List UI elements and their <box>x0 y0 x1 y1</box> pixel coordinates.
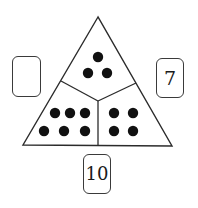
dot <box>128 126 138 136</box>
dot <box>102 68 112 78</box>
dot <box>83 68 93 78</box>
answer-box-left[interactable] <box>12 56 41 97</box>
box-bottom-value: 10 <box>86 165 109 183</box>
dot <box>80 108 90 118</box>
divider-right <box>98 83 136 101</box>
dot <box>128 108 138 118</box>
section-bottom-left-dots <box>39 108 90 136</box>
number-box-bottom: 10 <box>83 154 111 194</box>
divider-left <box>61 81 98 101</box>
dot <box>109 126 119 136</box>
box-right-value: 7 <box>164 69 176 88</box>
section-top-dots <box>83 52 112 78</box>
dot <box>50 108 60 118</box>
dot <box>80 126 90 136</box>
number-bond-diagram: 7 10 <box>0 0 198 208</box>
dot <box>59 126 69 136</box>
number-box-right: 7 <box>156 58 184 98</box>
dot <box>65 108 75 118</box>
dot <box>93 52 103 62</box>
section-bottom-right-dots <box>109 108 138 136</box>
dot <box>109 108 119 118</box>
dot <box>39 126 49 136</box>
